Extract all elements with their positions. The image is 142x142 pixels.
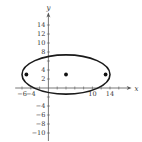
focus-left-point [25, 73, 29, 77]
axes [15, 13, 131, 142]
center-point [64, 73, 68, 77]
y-tick-label: 2 [41, 75, 45, 83]
ellipse-graph: −6−41014141210842−4−6−8−10 xy [0, 0, 142, 141]
y-tick-label: 10 [37, 39, 45, 47]
y-tick-label: 12 [37, 30, 45, 38]
y-tick-label: −10 [32, 129, 46, 137]
x-tick-label: 14 [106, 90, 114, 98]
axis-labels: xy [45, 4, 138, 93]
x-tick-label: −4 [26, 90, 36, 98]
y-tick-label: 14 [37, 21, 45, 29]
focus-right-point [104, 73, 108, 77]
y-tick-label: 8 [41, 48, 45, 56]
tick-labels: −6−41014141210842−4−6−8−10 [17, 21, 114, 137]
x-axis-label: x [135, 85, 139, 93]
y-tick-label: −8 [36, 120, 46, 128]
y-axis-label: y [45, 4, 51, 12]
y-tick-label: −6 [36, 111, 46, 119]
y-tick-label: 4 [41, 66, 45, 74]
points [25, 73, 108, 77]
coordinate-plane: −6−41014141210842−4−6−8−10 xy [0, 0, 142, 141]
y-tick-label: −4 [36, 102, 46, 110]
